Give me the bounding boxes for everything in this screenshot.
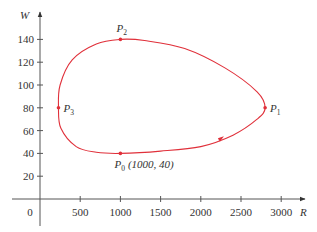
x-tick-label: 500 (72, 206, 89, 218)
y-ticks: 20406080100120140 (18, 33, 44, 182)
origin-label: 0 (27, 206, 33, 218)
point-marker (119, 38, 123, 42)
x-tick-label: 1000 (109, 206, 132, 218)
point-label-p1: P1 (269, 102, 281, 117)
y-tick-label: 100 (18, 79, 35, 91)
x-axis-label: R (299, 206, 307, 218)
x-tick-label: 3000 (270, 206, 293, 218)
x-tick-label: 1500 (150, 206, 173, 218)
y-tick-label: 60 (23, 125, 35, 137)
y-tick-label: 80 (23, 102, 35, 114)
point-marker (57, 106, 61, 110)
y-axis-label: W (20, 9, 30, 21)
trajectory-curve (58, 39, 265, 153)
y-tick-label: 40 (23, 147, 35, 159)
y-tick-label: 20 (23, 170, 35, 182)
point-label-p2: P2 (115, 22, 127, 37)
phase-trajectory-chart: R W 0 50010001500200025003000 2040608010… (0, 0, 317, 232)
point-marker (119, 152, 123, 156)
point-label-p3: P3 (62, 102, 74, 117)
x-tick-label: 2000 (190, 206, 213, 218)
y-tick-label: 120 (18, 56, 35, 68)
x-tick-label: 2500 (230, 206, 253, 218)
axes: R W 0 50010001500200025003000 2040608010… (12, 9, 307, 226)
y-tick-label: 140 (18, 33, 35, 45)
point-marker (263, 106, 267, 110)
point-label-p0: P0(1000, 40) (113, 158, 174, 173)
